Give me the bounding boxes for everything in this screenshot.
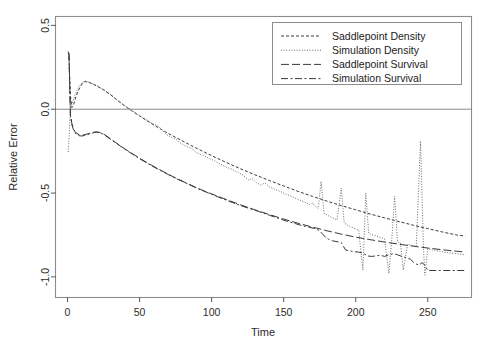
- legend-label-saddlepoint-density: Saddlepoint Density: [332, 30, 426, 42]
- y-tick-label: -1.0: [39, 268, 51, 286]
- x-tick-label: 50: [134, 306, 146, 318]
- y-tick-label: -0.5: [39, 184, 51, 202]
- x-tick-label: 100: [203, 306, 221, 318]
- legend-label-simulation-survival: Simulation Survival: [332, 72, 421, 84]
- relative-error-line-chart: 0501001502002500.50.0-0.5-1.0 Time Relat…: [0, 0, 488, 356]
- x-tick-label: 200: [347, 306, 365, 318]
- legend-label-simulation-density: Simulation Density: [332, 44, 420, 56]
- chart-figure: 0501001502002500.50.0-0.5-1.0 Time Relat…: [0, 0, 488, 356]
- y-tick-label: 0.0: [39, 102, 51, 117]
- x-tick-label: 150: [275, 306, 293, 318]
- x-axis-label: Time: [251, 326, 275, 338]
- x-tick-label: 250: [419, 306, 437, 318]
- legend-label-saddlepoint-survival: Saddlepoint Survival: [332, 58, 428, 70]
- y-tick-label: 0.5: [39, 18, 51, 33]
- y-axis-label: Relative Error: [7, 123, 19, 191]
- x-tick-label: 0: [65, 306, 71, 318]
